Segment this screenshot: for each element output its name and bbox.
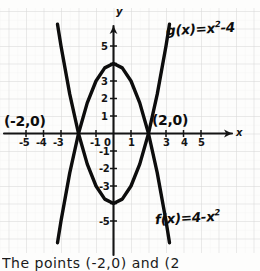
y-tick-label-5: 5 (101, 41, 108, 52)
x-tick-label-5: 5 (198, 137, 205, 148)
y-tick-label--3: -3 (99, 181, 110, 192)
y-tick-label--2: -2 (99, 163, 110, 174)
x-tick-label-1: 1 (128, 137, 135, 148)
coordinate-plane (0, 0, 260, 271)
x-tick-label-3: 3 (163, 137, 170, 148)
x-tick-label--4: -4 (36, 137, 47, 148)
function-label-f-text: f(x)=4-x (155, 208, 215, 227)
annotation-left-root: (-2,0) (4, 113, 46, 129)
y-tick-label-1: 1 (101, 111, 108, 122)
grid-lines (0, 8, 260, 253)
y-tick-label-3: 3 (101, 76, 108, 87)
x-tick-label-4: 4 (181, 137, 188, 148)
function-label-f: f(x)=4-x2 (155, 207, 221, 227)
y-tick-label--5: -5 (99, 216, 110, 227)
function-label-g-suffix: -4 (220, 19, 235, 36)
x-tick-label--3: -3 (53, 137, 64, 148)
graph-scene: y x -5 -4 -3 -1 0 1 3 4 5 5 3 2 1 -1 -2 … (0, 0, 260, 271)
caption-text: The points (-2,0) and (2 (2, 255, 260, 271)
function-label-f-exponent: 2 (214, 207, 220, 217)
x-axis-label: x (236, 127, 242, 138)
function-label-g-text: g(x)=x (166, 20, 216, 39)
y-axis-label: y (116, 6, 122, 17)
y-tick-label--1: -1 (99, 146, 110, 157)
y-tick-label-2: 2 (101, 93, 108, 104)
annotation-right-root: (2,0) (152, 112, 188, 128)
x-tick-label--5: -5 (19, 137, 30, 148)
